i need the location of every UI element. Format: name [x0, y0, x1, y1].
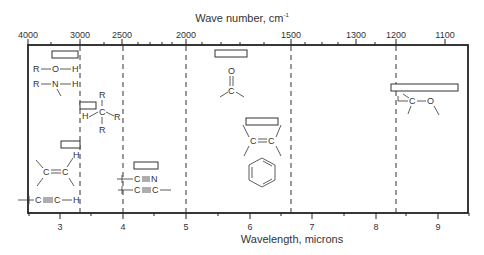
top-tick-labels: 4000 3000 2500 2000 1500 1300 1200 1100	[18, 30, 455, 40]
svg-text:1300: 1300	[346, 30, 366, 40]
svg-text:C: C	[134, 174, 141, 184]
svg-text:H: H	[73, 195, 80, 205]
svg-text:2500: 2500	[112, 30, 132, 40]
structure-alcohol: R O H	[33, 64, 79, 74]
svg-text:H: H	[72, 79, 79, 89]
svg-text:1500: 1500	[281, 30, 301, 40]
structure-alkane: R C H R R	[82, 90, 121, 135]
bar-oh-nh	[52, 51, 78, 58]
svg-text:H: H	[82, 111, 89, 121]
svg-text:5: 5	[183, 222, 188, 232]
svg-text:C: C	[268, 136, 275, 146]
structures: R O H R N H R C H R R H	[18, 64, 439, 205]
svg-text:O: O	[228, 66, 235, 76]
structure-vinyl-ch: H C C	[36, 150, 80, 186]
svg-text:C: C	[35, 195, 42, 205]
svg-text:O: O	[52, 64, 59, 74]
svg-text:N: N	[52, 79, 59, 89]
svg-text:6: 6	[247, 222, 252, 232]
svg-text:H: H	[72, 64, 79, 74]
top-axis-title: Wave number, cm-1	[195, 12, 289, 24]
svg-text:C: C	[99, 107, 106, 117]
svg-text:7: 7	[309, 222, 314, 232]
svg-text:8: 8	[373, 222, 378, 232]
svg-text:C: C	[43, 167, 50, 177]
svg-text:3: 3	[57, 222, 62, 232]
svg-text:C: C	[54, 195, 61, 205]
structure-internal-alkyne: C C	[118, 185, 171, 195]
svg-text:R: R	[33, 79, 40, 89]
svg-text:1200: 1200	[386, 30, 406, 40]
structure-amine: R N H	[33, 79, 79, 96]
svg-text:C: C	[134, 185, 141, 195]
bottom-axis-title: Wavelength, microns	[241, 233, 344, 245]
svg-text:H: H	[73, 150, 80, 160]
bar-sp2-ch	[61, 141, 80, 148]
bar-alkene-aromatic	[246, 118, 278, 125]
bar-c-o	[391, 84, 458, 91]
structure-alkene: C C	[243, 125, 281, 156]
svg-text:4000: 4000	[18, 30, 38, 40]
svg-text:O: O	[427, 96, 434, 106]
svg-text:C: C	[409, 96, 416, 106]
absorption-bars	[52, 50, 458, 169]
svg-text:R: R	[33, 64, 40, 74]
bottom-tick-labels: 3 4 5 6 7 8 9	[57, 222, 440, 232]
svg-text:R: R	[114, 112, 121, 122]
svg-text:3000: 3000	[70, 30, 90, 40]
bar-triple-bonds	[134, 162, 158, 169]
bar-sp3-ch	[80, 102, 96, 109]
bar-carbonyl	[215, 50, 247, 57]
structure-carbonyl: O C	[220, 66, 244, 97]
svg-text:9: 9	[435, 222, 440, 232]
svg-text:N: N	[151, 174, 158, 184]
structure-benzene	[249, 158, 275, 187]
ir-chart: Wave number, cm-1 4000 3000 2500 2000 15…	[0, 0, 484, 255]
svg-text:1100: 1100	[435, 30, 454, 40]
svg-text:C: C	[228, 86, 235, 96]
svg-text:2000: 2000	[176, 30, 196, 40]
structure-ether-alcohol: C O	[398, 94, 439, 115]
svg-text:4: 4	[120, 222, 125, 232]
svg-text:R: R	[99, 125, 106, 135]
dashed-region-lines	[80, 46, 396, 212]
plot-frame	[28, 45, 468, 213]
svg-text:C: C	[62, 167, 69, 177]
svg-text:C: C	[250, 136, 257, 146]
svg-text:C: C	[152, 185, 159, 195]
svg-text:R: R	[99, 90, 106, 100]
